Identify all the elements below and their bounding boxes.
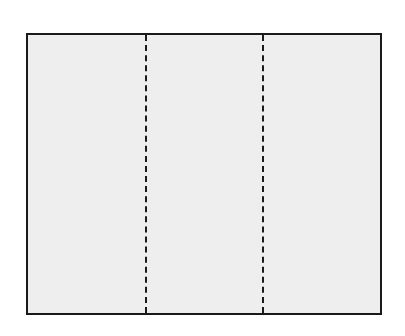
fold-line-left	[145, 35, 147, 313]
fold-line-right	[262, 35, 264, 313]
tri-fold-sheet	[26, 33, 382, 315]
